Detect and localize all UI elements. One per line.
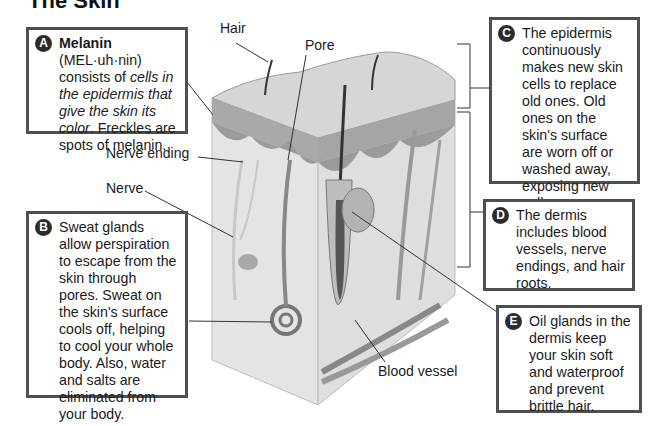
letter-b-badge-icon: B — [35, 219, 52, 236]
letter-c-badge-icon: C — [498, 25, 515, 42]
callout-b-text: Sweat glands allow perspiration to escap… — [59, 219, 179, 423]
label-pore: Pore — [305, 37, 335, 53]
term-melanin: Melanin — [59, 35, 112, 51]
callout-c-epidermis: C The epidermis continuously makes new s… — [489, 17, 640, 184]
callout-e-oil-glands: E Oil glands in the dermis keep your ski… — [496, 305, 642, 413]
callout-d-text: The dermis includes blood vessels, nerve… — [516, 207, 626, 292]
callout-e-text: Oil glands in the dermis keep your skin … — [529, 313, 633, 415]
letter-d-badge-icon: D — [492, 207, 509, 224]
label-blood-vessel: Blood vessel — [378, 363, 457, 379]
label-hair: Hair — [220, 20, 246, 36]
callout-c-text: The epidermis continuously makes new ski… — [522, 25, 631, 212]
callout-d-dermis: D The dermis includes blood vessels, ner… — [483, 199, 635, 291]
callout-b-sweat-glands: B Sweat glands allow perspiration to esc… — [26, 211, 188, 398]
label-nerve: Nerve — [106, 180, 143, 196]
letter-e-badge-icon: E — [505, 313, 522, 330]
callout-a-melanin: A Melanin (MEL·uh·nin) consists of cells… — [26, 27, 188, 134]
letter-a-badge-icon: A — [35, 35, 52, 52]
